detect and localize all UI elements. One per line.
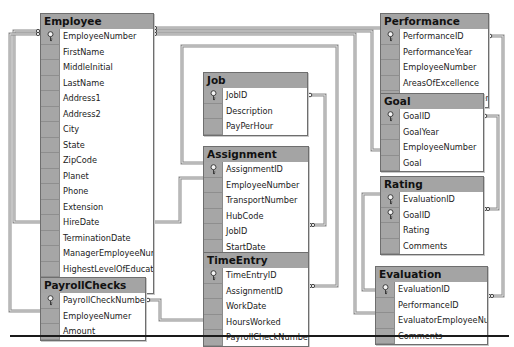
table-job[interactable]: Job JobIDDescriptionPayPerHour bbox=[203, 72, 308, 136]
column-row[interactable]: ManagerEmployeeNumber bbox=[41, 246, 153, 262]
column-row[interactable]: PayrollCheckNumber bbox=[41, 293, 145, 309]
column-row[interactable]: WorkDate bbox=[204, 299, 308, 315]
column-row[interactable]: Description bbox=[204, 104, 307, 120]
primary-key-cell[interactable] bbox=[381, 208, 400, 224]
table-timeentry[interactable]: TimeEntry TimeEntryIDAssignmentIDWorkDat… bbox=[203, 252, 309, 347]
column-row[interactable]: Address2 bbox=[41, 107, 153, 123]
column-row[interactable]: EmployeeNumber bbox=[381, 140, 483, 156]
column-row[interactable]: City bbox=[41, 122, 153, 138]
column-row[interactable]: Goal bbox=[381, 156, 483, 172]
column-row[interactable]: ZipCode bbox=[41, 153, 153, 169]
column-selector-cell[interactable] bbox=[204, 193, 223, 209]
column-row[interactable]: AreasOfExcellence bbox=[381, 76, 488, 92]
column-row[interactable]: State bbox=[41, 138, 153, 154]
table-evaluation[interactable]: Evaluation EvaluationIDPerformanceIDEval… bbox=[375, 266, 488, 345]
primary-key-cell[interactable] bbox=[376, 282, 395, 298]
column-selector-cell[interactable] bbox=[41, 76, 60, 92]
column-row[interactable]: PerformanceID bbox=[381, 29, 488, 45]
column-selector-cell[interactable] bbox=[41, 215, 60, 231]
column-selector-cell[interactable] bbox=[41, 231, 60, 247]
primary-key-cell[interactable] bbox=[204, 88, 223, 104]
column-selector-cell[interactable] bbox=[41, 169, 60, 185]
column-selector-cell[interactable] bbox=[204, 119, 223, 135]
column-row[interactable]: TransportNumber bbox=[204, 193, 308, 209]
column-row[interactable]: AssignmentID bbox=[204, 162, 308, 178]
primary-key-cell[interactable] bbox=[381, 192, 400, 208]
table-employee[interactable]: Employee EmployeeNumberFirstNameMiddleIn… bbox=[40, 13, 154, 294]
column-row[interactable]: LastName bbox=[41, 76, 153, 92]
column-selector-cell[interactable] bbox=[41, 122, 60, 138]
column-row[interactable]: Address1 bbox=[41, 91, 153, 107]
column-selector-cell[interactable] bbox=[204, 209, 223, 225]
column-row[interactable]: Phone bbox=[41, 184, 153, 200]
column-row[interactable]: TerminationDate bbox=[41, 231, 153, 247]
column-row[interactable]: Comments bbox=[381, 239, 483, 255]
column-selector-cell[interactable] bbox=[41, 91, 60, 107]
column-selector-cell[interactable] bbox=[41, 309, 60, 325]
column-row[interactable]: Planet bbox=[41, 169, 153, 185]
column-selector-cell[interactable] bbox=[204, 104, 223, 120]
column-selector-cell[interactable] bbox=[204, 315, 223, 331]
column-row[interactable]: HubCode bbox=[204, 209, 308, 225]
column-selector-cell[interactable] bbox=[381, 140, 400, 156]
primary-key-cell[interactable] bbox=[381, 29, 400, 45]
column-row[interactable]: EvaluatorEmployeeNumber bbox=[376, 313, 487, 329]
column-row[interactable]: GoalID bbox=[381, 109, 483, 125]
column-selector-cell[interactable] bbox=[41, 107, 60, 123]
column-row[interactable]: PerformanceID bbox=[376, 298, 487, 314]
column-row[interactable]: GoalID bbox=[381, 208, 483, 224]
column-row[interactable]: MiddleInitial bbox=[41, 60, 153, 76]
column-row[interactable]: EmployeeNumber bbox=[204, 178, 308, 194]
column-selector-cell[interactable] bbox=[381, 60, 400, 76]
column-selector-cell[interactable] bbox=[41, 262, 60, 278]
column-row[interactable]: PerformanceYear bbox=[381, 45, 488, 61]
column-row[interactable]: EmployeeNumber bbox=[381, 60, 488, 76]
table-goal[interactable]: Goal GoalIDGoalYearEmployeeNumberGoal bbox=[380, 93, 484, 172]
column-row[interactable]: HighestLevelOfEducation bbox=[41, 262, 153, 278]
table-rating[interactable]: Rating EvaluationIDGoalIDRatingComments bbox=[380, 176, 484, 255]
table-payrollchecks[interactable]: PayrollChecks PayrollCheckNumberEmployee… bbox=[40, 277, 146, 341]
column-row[interactable]: HoursWorked bbox=[204, 315, 308, 331]
column-selector-cell[interactable] bbox=[41, 184, 60, 200]
column-row[interactable]: EmployeeNumber bbox=[41, 29, 153, 45]
column-selector-cell[interactable] bbox=[204, 299, 223, 315]
column-row[interactable]: FirstName bbox=[41, 45, 153, 61]
column-selector-cell[interactable] bbox=[41, 45, 60, 61]
column-row[interactable]: PayPerHour bbox=[204, 119, 307, 135]
column-row[interactable]: PayrollCheckNumber bbox=[204, 330, 308, 346]
column-selector-cell[interactable] bbox=[204, 284, 223, 300]
column-selector-cell[interactable] bbox=[381, 76, 400, 92]
column-selector-cell[interactable] bbox=[381, 156, 400, 172]
column-selector-cell[interactable] bbox=[41, 324, 60, 340]
column-selector-cell[interactable] bbox=[41, 200, 60, 216]
relationship-goal-rating[interactable] bbox=[482, 116, 498, 209]
column-row[interactable]: EvaluationID bbox=[376, 282, 487, 298]
column-row[interactable]: Amount bbox=[41, 324, 145, 340]
column-selector-cell[interactable] bbox=[381, 239, 400, 255]
column-row[interactable]: JobID bbox=[204, 88, 307, 104]
column-row[interactable]: Extension bbox=[41, 200, 153, 216]
column-selector-cell[interactable] bbox=[381, 125, 400, 141]
primary-key-cell[interactable] bbox=[204, 268, 223, 284]
primary-key-cell[interactable] bbox=[41, 293, 60, 309]
column-selector-cell[interactable] bbox=[41, 246, 60, 262]
primary-key-cell[interactable] bbox=[41, 29, 60, 45]
column-selector-cell[interactable] bbox=[381, 223, 400, 239]
column-selector-cell[interactable] bbox=[41, 138, 60, 154]
column-selector-cell[interactable] bbox=[376, 298, 395, 314]
column-selector-cell[interactable] bbox=[204, 224, 223, 240]
column-row[interactable]: JobID bbox=[204, 224, 308, 240]
column-row[interactable]: TimeEntryID bbox=[204, 268, 308, 284]
primary-key-cell[interactable] bbox=[381, 109, 400, 125]
column-row[interactable]: EmployeeNumer bbox=[41, 309, 145, 325]
column-row[interactable]: AssignmentID bbox=[204, 284, 308, 300]
primary-key-cell[interactable] bbox=[204, 162, 223, 178]
column-selector-cell[interactable] bbox=[381, 45, 400, 61]
column-row[interactable]: GoalYear bbox=[381, 125, 483, 141]
column-selector-cell[interactable] bbox=[41, 153, 60, 169]
column-row[interactable]: HireDate bbox=[41, 215, 153, 231]
column-selector-cell[interactable] bbox=[204, 330, 223, 346]
column-row[interactable]: EvaluationID bbox=[381, 192, 483, 208]
column-selector-cell[interactable] bbox=[41, 60, 60, 76]
column-selector-cell[interactable] bbox=[204, 178, 223, 194]
